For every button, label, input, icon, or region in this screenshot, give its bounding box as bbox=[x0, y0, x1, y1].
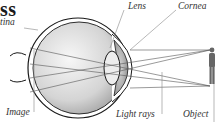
optic-nerve bbox=[10, 53, 26, 82]
object-figure-icon bbox=[209, 48, 215, 84]
label-light-rays: Light rays bbox=[116, 109, 155, 119]
eye-diagram bbox=[0, 0, 224, 122]
label-image: Image bbox=[6, 107, 30, 117]
lens bbox=[104, 51, 120, 85]
label-object: Object bbox=[183, 109, 208, 119]
label-cornea: Cornea bbox=[178, 1, 207, 11]
label-retina: tina bbox=[0, 17, 15, 27]
label-lens: Lens bbox=[128, 1, 146, 11]
